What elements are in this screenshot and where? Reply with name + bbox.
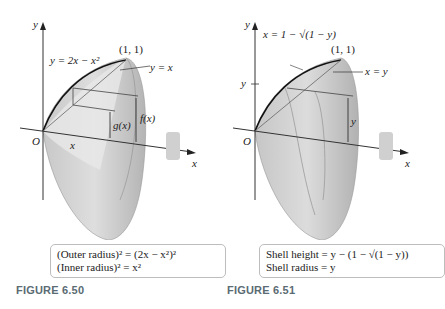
formula-line: (Inner radius)² = x² (57, 261, 219, 274)
formula-box: (Outer radius)² = (2x − x²)² (Inner radi… (50, 244, 226, 278)
curve-label: x = 1 − √(1 − y) (263, 29, 336, 40)
line-label: x = y (365, 66, 388, 77)
x-axis-label: x (192, 158, 197, 169)
figure-6-50: y x O y = 2x − x² (1, 1) y = x f(x) g(x)… (0, 0, 215, 309)
y-axis-label: y (245, 19, 250, 30)
figure-6-51: y x O x = 1 − √(1 − y) (1, 1) x = y y y … (215, 0, 431, 309)
formula-line: (Outer radius)² = (2x − x²)² (57, 248, 219, 261)
origin-label: O (32, 136, 40, 147)
figure-caption: FIGURE 6.50 (16, 284, 84, 296)
formula-line: Shell height = y − (1 − √(1 − y)) (266, 248, 438, 261)
y-axis-label: y (33, 19, 38, 30)
curve-label: y = 2x − x² (50, 55, 99, 66)
shell-height-label: y (351, 116, 356, 127)
origin-label: O (243, 136, 251, 147)
outer-radius-label: f(x) (140, 113, 155, 124)
point-label: (1, 1) (119, 44, 143, 55)
solid-of-revolution-washer (0, 0, 215, 240)
y-tick-label: y (241, 78, 246, 89)
figure-caption: FIGURE 6.51 (227, 284, 295, 296)
formula-box: Shell height = y − (1 − √(1 − y)) Shell … (259, 244, 445, 278)
line-label: y = x (150, 62, 173, 73)
inner-radius-label: g(x) (113, 120, 131, 131)
x-tick-label: x (70, 140, 75, 151)
formula-line: Shell radius = y (266, 261, 438, 274)
x-axis-label: x (405, 158, 410, 169)
point-label: (1, 1) (331, 44, 355, 55)
